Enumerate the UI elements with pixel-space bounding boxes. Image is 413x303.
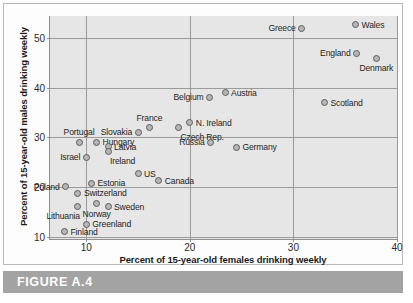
data-point-label: Canada	[165, 176, 194, 186]
gridline-horizontal	[50, 38, 397, 39]
data-point-label: Denmark	[359, 63, 393, 73]
data-point-label: Portugal	[64, 127, 95, 137]
gridline-horizontal	[50, 237, 397, 238]
data-point-marker	[146, 124, 153, 131]
y-axis-title: Percent of 15-year-old males drinking we…	[18, 12, 29, 242]
data-point-label: Belgium	[174, 92, 204, 102]
x-axis-title: Percent of 15-year-old females drinking …	[49, 254, 397, 265]
x-tick-label: 10	[81, 242, 92, 253]
y-tick-label: 10	[34, 231, 45, 242]
data-point-label: Lithuania	[46, 211, 80, 221]
data-point-marker	[83, 154, 90, 161]
data-point-marker	[233, 144, 240, 151]
data-point-marker	[155, 177, 162, 184]
data-point-label: Sweden	[114, 202, 144, 212]
gridline-vertical	[190, 16, 191, 239]
data-point-marker	[186, 119, 193, 126]
gridline-vertical	[293, 16, 294, 239]
x-tick-label: 20	[184, 242, 195, 253]
data-point-label: Norway	[82, 209, 110, 219]
x-tick-label: 30	[288, 242, 299, 253]
data-point-marker	[353, 50, 360, 57]
data-point-marker	[206, 94, 213, 101]
data-point-marker	[373, 55, 380, 62]
data-point-label: England	[320, 48, 351, 58]
data-point-marker	[74, 190, 81, 197]
data-point-marker	[175, 124, 182, 131]
data-point-label: Israel	[60, 152, 80, 162]
figure-screenshot: Percent of 15-year-old males drinking we…	[0, 0, 413, 303]
data-point-label: Latvia	[114, 142, 136, 152]
y-tick-label: 30	[34, 132, 45, 143]
data-point-label: Slovakia	[101, 127, 132, 137]
data-point-label: Greece	[268, 23, 295, 33]
figure-caption-bar: FIGURE A.4	[3, 271, 403, 293]
gridline-vertical	[397, 16, 398, 239]
data-point-label: Finland	[71, 227, 98, 237]
y-tick-mark	[47, 237, 50, 238]
data-point-label: Scotland	[330, 98, 362, 108]
data-point-marker	[135, 170, 142, 177]
data-point-label: Wales	[362, 20, 385, 30]
data-point-label: Estonia	[97, 178, 125, 188]
data-point-marker	[76, 139, 83, 146]
data-point-label: Ireland	[110, 156, 135, 166]
data-point-marker	[352, 21, 359, 28]
data-point-marker	[74, 203, 81, 210]
data-point-label: US	[144, 169, 156, 179]
data-point-label: Switzerland	[84, 188, 127, 198]
y-tick-label: 50	[34, 33, 45, 44]
data-point-marker	[135, 129, 142, 136]
scatter-plot-area: 1020304050 10203040 GreeceWalesEnglandDe…	[49, 16, 397, 240]
figure-caption-text: FIGURE A.4	[17, 275, 93, 289]
y-tick-label: 40	[34, 82, 45, 93]
data-point-label: Germany	[242, 142, 276, 152]
y-tick-mark	[47, 38, 50, 39]
data-point-marker	[93, 200, 100, 207]
data-point-label: Austria	[231, 88, 257, 98]
figure-frame: Percent of 15-year-old males drinking we…	[3, 3, 403, 265]
data-point-label: Poland	[34, 182, 60, 192]
y-tick-mark	[47, 88, 50, 89]
data-point-label: N. Ireland	[196, 118, 232, 128]
data-point-label: Greenland	[92, 219, 131, 229]
data-point-marker	[61, 228, 68, 235]
data-point-marker	[62, 183, 69, 190]
y-tick-mark	[47, 137, 50, 138]
data-point-marker	[298, 25, 305, 32]
data-point-marker	[207, 139, 214, 146]
data-point-marker	[321, 99, 328, 106]
data-point-marker	[222, 89, 229, 96]
data-point-label: France	[137, 113, 163, 123]
x-tick-label: 40	[391, 242, 402, 253]
data-point-marker	[88, 180, 95, 187]
data-point-label: Russia	[179, 137, 204, 147]
data-point-marker	[105, 203, 112, 210]
data-point-marker	[105, 148, 112, 155]
data-point-marker	[93, 139, 100, 146]
